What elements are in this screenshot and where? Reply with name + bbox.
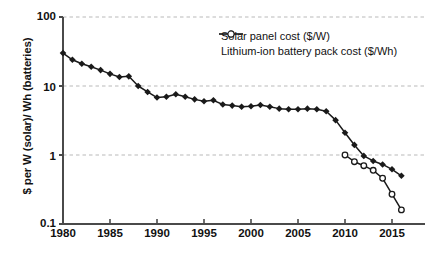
data-point-battery <box>361 163 367 169</box>
data-point-solar <box>314 106 321 113</box>
data-point-solar <box>257 102 264 109</box>
data-point-solar <box>79 60 86 67</box>
data-point-solar <box>370 158 377 165</box>
data-point-solar <box>173 91 180 98</box>
data-point-battery <box>342 152 348 158</box>
data-point-solar <box>154 94 161 101</box>
data-point-solar <box>276 105 283 112</box>
data-point-solar <box>379 161 386 168</box>
data-point-solar <box>88 63 95 70</box>
data-point-solar <box>267 103 274 110</box>
series-line-solar <box>63 53 401 176</box>
data-point-battery <box>389 191 395 197</box>
data-point-solar <box>182 93 189 100</box>
chart-container: $ per W (solar)/ Wh (batteries) 100 10 1… <box>0 0 432 256</box>
data-point-battery <box>352 159 358 165</box>
chart-plot-area <box>0 0 432 256</box>
data-point-solar <box>116 74 123 81</box>
data-point-solar <box>295 106 302 113</box>
data-point-solar <box>201 98 208 105</box>
data-point-battery <box>399 207 405 213</box>
data-point-solar <box>285 106 292 113</box>
data-point-solar <box>210 97 217 104</box>
data-point-battery <box>370 168 376 174</box>
data-point-solar <box>107 71 114 78</box>
data-point-solar <box>163 93 170 100</box>
data-point-battery <box>380 175 386 181</box>
data-point-solar <box>248 103 255 110</box>
data-point-solar <box>238 103 245 110</box>
data-point-solar <box>191 96 198 103</box>
data-point-solar <box>220 101 227 108</box>
data-point-solar <box>304 105 311 112</box>
data-point-solar <box>97 67 104 74</box>
data-point-solar <box>229 102 236 109</box>
